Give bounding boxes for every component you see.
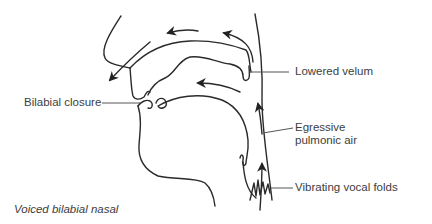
oral-airflow-arrow [198, 83, 240, 92]
vocal-folds-zigzag [250, 180, 270, 200]
vocal-tract-diagram: Lowered velum Bilabial closure Egressive… [0, 0, 432, 224]
nose-outline [104, 16, 130, 68]
pharynx-back-wall [255, 14, 272, 200]
egressive-airflow-arrow-lower [260, 164, 262, 210]
label-bilabial-closure: Bilabial closure [24, 96, 101, 109]
pharynx-front-wall [243, 162, 256, 198]
tongue [156, 96, 248, 166]
upper-lip [130, 68, 150, 99]
label-lowered-velum: Lowered velum [295, 65, 373, 78]
egressive-airflow-arrow-upper [258, 104, 262, 134]
diagram-caption: Voiced bilabial nasal [14, 203, 118, 215]
label-egressive-line1: Egressive [295, 121, 346, 134]
label-vocal-folds: Vibrating vocal folds [295, 181, 398, 194]
top-airflow-arrow-left [168, 30, 198, 33]
jaw-outline [138, 106, 215, 206]
label-egressive-line2: pulmonic air [295, 134, 357, 147]
lower-lip [138, 100, 152, 108]
leader-egressive [263, 128, 293, 133]
